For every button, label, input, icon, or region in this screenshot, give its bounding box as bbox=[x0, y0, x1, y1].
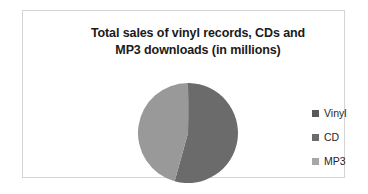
chart-title: Total sales of vinyl records, CDs and MP… bbox=[53, 25, 343, 59]
legend-label-cd: CD bbox=[324, 132, 339, 143]
legend-item-vinyl[interactable]: Vinyl bbox=[312, 101, 368, 125]
legend-swatch-mp3 bbox=[312, 158, 319, 165]
legend-label-mp3: MP3 bbox=[324, 156, 346, 167]
chart-screenshot: Total sales of vinyl records, CDs and MP… bbox=[0, 0, 368, 194]
chart-title-line-2: MP3 downloads (in millions) bbox=[53, 42, 343, 59]
chart-frame: Total sales of vinyl records, CDs and MP… bbox=[22, 10, 345, 178]
legend-swatch-cd bbox=[312, 134, 319, 141]
pie-plot-area bbox=[136, 81, 240, 185]
legend-item-mp3[interactable]: MP3 bbox=[312, 149, 368, 173]
pie-slices bbox=[138, 83, 238, 183]
pie-chart bbox=[138, 83, 238, 183]
legend-item-cd[interactable]: CD bbox=[312, 125, 368, 149]
chart-title-line-1: Total sales of vinyl records, CDs and bbox=[53, 25, 343, 42]
legend-label-vinyl: Vinyl bbox=[324, 108, 347, 119]
legend-swatch-vinyl bbox=[312, 110, 319, 117]
chart-legend: Vinyl CD MP3 bbox=[312, 101, 368, 173]
